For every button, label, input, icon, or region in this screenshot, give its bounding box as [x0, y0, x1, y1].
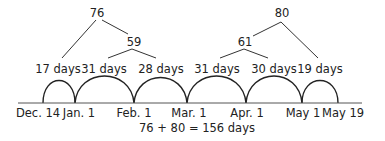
tree-line-80-to-61: [253, 22, 281, 36]
date-label: Feb. 1: [117, 106, 152, 120]
arc-mar1-apr1: [187, 76, 246, 103]
right-subtotal-label: 61: [238, 35, 253, 49]
arc-feb1-mar1: [134, 78, 187, 104]
left-total-label: 76: [90, 6, 105, 20]
tree-line-59-to-28: [132, 49, 156, 58]
date-label: Jan. 1: [62, 106, 95, 120]
date-label: May 19: [322, 106, 364, 120]
segment-label: 17 days: [35, 62, 80, 76]
segment-label: 31 days: [194, 62, 239, 76]
date-label: May 1: [286, 106, 321, 120]
total-equation: 76 + 80 = 156 days: [139, 121, 255, 135]
date-label: Mar. 1: [171, 106, 206, 120]
date-label: Apr. 1: [230, 106, 263, 120]
right-total-label: 80: [275, 6, 290, 20]
segment-label: 19 days: [297, 62, 342, 76]
arc-may1-may19: [302, 81, 338, 104]
segment-label: 28 days: [138, 62, 183, 76]
tree-line-59-to-31: [108, 49, 132, 58]
tree-line-80-to-19: [281, 22, 318, 58]
segment-label: 31 days: [81, 62, 126, 76]
left-subtotal-label: 59: [127, 35, 142, 49]
arc-jan1-feb1: [75, 76, 134, 103]
tree-line-76-to-17: [62, 20, 96, 58]
segment-label: 30 days: [251, 62, 296, 76]
arc-dec14-jan1: [43, 81, 75, 104]
tree-line-61-to-30: [244, 49, 268, 58]
day-count-diagram: 76 59 80 61 17 days 31 days 28 days 31 d…: [0, 0, 385, 141]
tree-line-61-to-31: [220, 49, 244, 58]
arc-apr1-may1: [246, 76, 302, 103]
tree-line-76-to-59: [102, 20, 128, 34]
date-label: Dec. 14: [16, 106, 60, 120]
